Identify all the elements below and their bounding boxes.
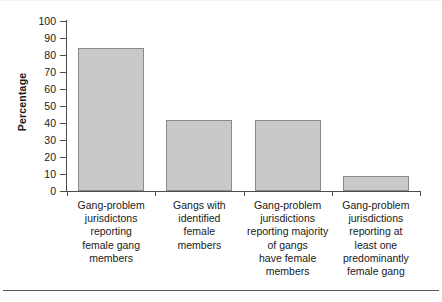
category-label-line: female gang <box>347 265 405 277</box>
category-label-line: predominantly <box>343 252 409 264</box>
x-tick-mark <box>67 191 68 196</box>
y-tick-mark <box>60 21 66 22</box>
category-label-line: Gang-problem <box>342 199 409 211</box>
bottom-rule <box>3 290 439 291</box>
y-tick-label: 60 <box>0 84 56 94</box>
category-label: Gang-problemjurisdictonsreportingfemale … <box>64 199 158 265</box>
category-label-line: reporting majority <box>247 225 328 237</box>
y-tick-label: 0 <box>0 186 56 196</box>
category-label: Gangs withidentifiedfemalemembers <box>152 199 246 252</box>
bar <box>343 176 409 191</box>
category-label-line: Gang-problem <box>78 199 145 211</box>
category-label-line: Gang-problem <box>254 199 321 211</box>
category-label-line: reporting <box>90 225 131 237</box>
y-tick-label: 100 <box>0 16 56 26</box>
category-label-line: jurisdictions <box>348 212 403 224</box>
category-label-line: Gangs with <box>173 199 226 211</box>
y-tick-label: 80 <box>0 50 56 60</box>
plot-area <box>67 21 420 191</box>
x-tick-mark <box>332 191 333 196</box>
category-label-line: identified <box>178 212 220 224</box>
bar <box>255 120 321 191</box>
y-tick-mark <box>60 72 66 73</box>
y-tick-mark <box>60 123 66 124</box>
y-tick-label: 40 <box>0 118 56 128</box>
category-label-line: members <box>89 252 133 264</box>
x-tick-mark <box>420 191 421 196</box>
y-tick-label: 90 <box>0 33 56 43</box>
y-tick-mark <box>60 38 66 39</box>
y-tick-mark <box>60 89 66 90</box>
y-tick-label: 50 <box>0 101 56 111</box>
y-tick-mark <box>60 174 66 175</box>
category-label-line: female gang <box>82 239 140 251</box>
category-label-line: of gangs <box>267 239 307 251</box>
category-label-line: members <box>177 239 221 251</box>
y-tick-label: 30 <box>0 135 56 145</box>
category-label-line: members <box>266 265 310 277</box>
category-label-line: reporting at <box>349 225 402 237</box>
category-label-line: jurisdictions <box>260 212 315 224</box>
bar <box>78 48 144 191</box>
y-tick-label: 20 <box>0 152 56 162</box>
category-label-line: have female <box>259 252 316 264</box>
y-tick-mark <box>60 55 66 56</box>
category-label-line: least one <box>355 239 398 251</box>
category-label: Gang-problemjurisdictionsreporting atlea… <box>329 199 423 278</box>
category-label: Gang-problemjurisdictionsreporting major… <box>241 199 335 278</box>
y-tick-label: 10 <box>0 169 56 179</box>
y-tick-mark <box>60 140 66 141</box>
y-tick-mark <box>60 191 66 192</box>
top-rule <box>0 0 442 1</box>
bar <box>166 120 232 191</box>
category-label-line: jurisdictons <box>85 212 138 224</box>
x-tick-mark <box>244 191 245 196</box>
y-tick-mark <box>60 157 66 158</box>
category-label-line: female <box>184 225 216 237</box>
y-tick-label: 70 <box>0 67 56 77</box>
figure-container: Percentage 1009080706050403020100 Gang-p… <box>0 0 442 302</box>
x-tick-mark <box>155 191 156 196</box>
y-tick-mark <box>60 106 66 107</box>
